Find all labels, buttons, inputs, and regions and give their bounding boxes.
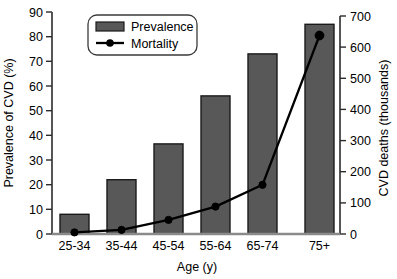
right-tick-label-600: 600	[350, 41, 371, 55]
bar-65-74	[248, 54, 277, 234]
x-axis-title: Age (y)	[177, 260, 217, 274]
left-tick-label-0: 0	[36, 228, 43, 242]
mortality-point-65-74	[259, 181, 266, 188]
right-axis: 700 600 500 400 300 200 100 0 CVD deaths…	[340, 10, 391, 242]
chart-svg: 90 80 70 60 50 40 30 20 10 0 Prevalence …	[0, 0, 397, 279]
right-tick-label-100: 100	[350, 196, 371, 210]
mortality-point-25-34	[71, 229, 78, 236]
left-tick-label-20: 20	[29, 178, 43, 192]
x-tick-label-65-74: 65-74	[247, 239, 279, 253]
right-tick-label-500: 500	[350, 72, 371, 86]
bar-55-64	[201, 96, 230, 234]
left-tick-label-40: 40	[29, 129, 43, 143]
chart-legend: Prevalence Mortality	[88, 15, 197, 55]
bar-75-plus	[305, 24, 334, 234]
x-tick-label-55-64: 55-64	[200, 239, 232, 253]
left-axis: 90 80 70 60 50 40 30 20 10 0 Prevalence …	[2, 6, 52, 242]
left-tick-label-30: 30	[29, 154, 43, 168]
x-tick-label-75-plus: 75+	[309, 239, 330, 253]
right-axis-title: CVD deaths (thousands)	[377, 60, 391, 197]
left-tick-label-10: 10	[29, 203, 43, 217]
legend-swatch-prevalence	[96, 22, 124, 31]
mortality-point-45-54	[165, 216, 172, 223]
legend-label-prevalence: Prevalence	[131, 20, 194, 34]
mortality-point-35-44	[118, 226, 125, 233]
legend-label-mortality: Mortality	[131, 37, 179, 51]
mortality-point-75-plus	[315, 31, 324, 40]
left-tick-label-60: 60	[29, 80, 43, 94]
right-tick-label-0: 0	[350, 228, 357, 242]
right-tick-label-300: 300	[350, 134, 371, 148]
legend-swatch-mortality-marker	[106, 39, 114, 47]
left-axis-title: Prevalence of CVD (%)	[2, 58, 16, 187]
x-tick-label-25-34: 25-34	[59, 239, 91, 253]
right-tick-label-400: 400	[350, 103, 371, 117]
cvd-prevalence-mortality-chart: 90 80 70 60 50 40 30 20 10 0 Prevalence …	[0, 0, 397, 279]
x-axis: 25-34 35-44 45-54 55-64 65-74 75+ Age (y…	[59, 239, 331, 274]
x-tick-label-35-44: 35-44	[106, 239, 138, 253]
right-tick-label-700: 700	[350, 10, 371, 24]
x-tick-label-45-54: 45-54	[153, 239, 185, 253]
left-tick-label-70: 70	[29, 55, 43, 69]
left-tick-label-90: 90	[29, 6, 43, 20]
left-tick-label-80: 80	[29, 30, 43, 44]
left-tick-label-50: 50	[29, 104, 43, 118]
right-tick-label-200: 200	[350, 165, 371, 179]
mortality-point-55-64	[212, 203, 219, 210]
